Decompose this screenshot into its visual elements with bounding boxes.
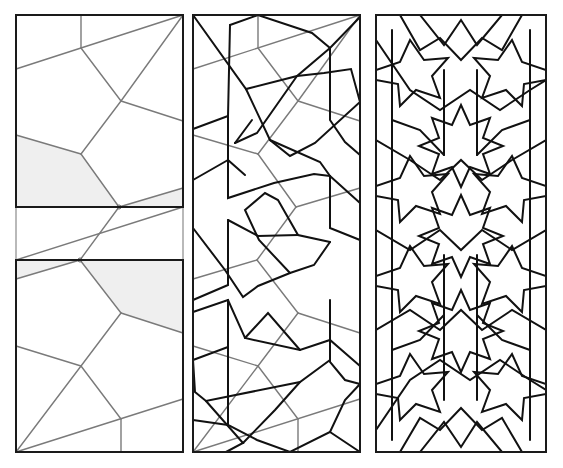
final-frame [376,15,546,452]
pattern-figure [0,0,563,468]
shaded-region [16,135,119,207]
shaded-region [80,260,183,333]
panel-final [376,15,546,452]
star-tile [419,290,503,372]
panel-overlay [193,15,360,452]
star-pattern-lines [376,15,546,452]
panel-construction [16,15,183,452]
